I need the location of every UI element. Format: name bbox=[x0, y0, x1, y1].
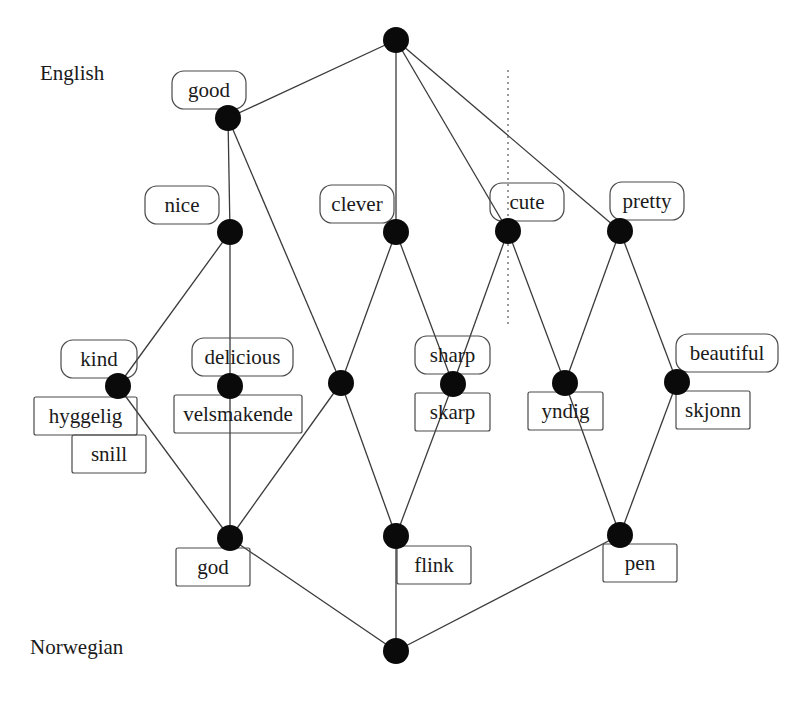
norwegian-label-text: skarp bbox=[430, 400, 476, 424]
norwegian-label-velsmakende: velsmakende bbox=[174, 395, 302, 433]
english-label-text: cute bbox=[510, 190, 545, 214]
english-label-text: pretty bbox=[623, 189, 672, 213]
norwegian-label-snill: snill bbox=[72, 435, 146, 473]
english-label-text: sharp bbox=[430, 343, 476, 367]
edge-top-good bbox=[228, 40, 396, 118]
norwegian-label-text: velsmakende bbox=[183, 402, 293, 426]
english-label-text: beautiful bbox=[690, 341, 765, 365]
english-label-nice: nice bbox=[145, 186, 219, 224]
norwegian-label-text: god bbox=[197, 555, 229, 579]
edge-cute-yndig bbox=[508, 231, 565, 383]
english-label-text: good bbox=[188, 78, 231, 102]
node-yndig bbox=[552, 370, 578, 396]
english-label-good: good bbox=[172, 71, 246, 109]
node-mid bbox=[328, 370, 354, 396]
edge-god-bottom bbox=[230, 538, 396, 651]
lattice-diagram: goodniceclevercuteprettykinddelicioussha… bbox=[0, 0, 810, 702]
language-label-norwegian: Norwegian bbox=[30, 635, 124, 659]
norwegian-label-pen: pen bbox=[603, 544, 677, 582]
node-god bbox=[217, 525, 243, 551]
edge-beautiful-pen bbox=[620, 382, 677, 535]
node-beautiful bbox=[664, 369, 690, 395]
norwegian-label-text: yndig bbox=[542, 399, 590, 423]
node-good bbox=[215, 105, 241, 131]
edge-clever-mid bbox=[341, 232, 396, 383]
norwegian-label-text: skjonn bbox=[685, 398, 742, 422]
language-label-english: English bbox=[40, 61, 105, 85]
norwegian-label-hyggelig: hyggelig bbox=[34, 397, 137, 435]
english-label-sharp: sharp bbox=[415, 336, 490, 374]
english-label-cute: cute bbox=[490, 183, 564, 221]
norwegian-label-yndig: yndig bbox=[528, 392, 603, 430]
norwegian-label-skarp: skarp bbox=[415, 393, 490, 431]
node-pen bbox=[607, 522, 633, 548]
english-label-clever: clever bbox=[320, 185, 394, 223]
english-label-kind: kind bbox=[61, 340, 137, 378]
english-label-text: kind bbox=[80, 347, 118, 371]
node-top bbox=[383, 27, 409, 53]
norwegian-label-skjonn: skjonn bbox=[676, 391, 750, 429]
node-kind bbox=[105, 373, 131, 399]
english-label-pretty: pretty bbox=[610, 182, 684, 220]
node-nice bbox=[217, 219, 243, 245]
norwegian-label-text: flink bbox=[414, 553, 454, 577]
english-labels-layer: goodniceclevercuteprettykinddelicioussha… bbox=[61, 71, 778, 378]
edge-pretty-beautiful bbox=[620, 231, 677, 382]
node-bottom bbox=[383, 638, 409, 664]
node-pretty bbox=[607, 218, 633, 244]
edge-mid-flink bbox=[341, 383, 396, 536]
english-label-text: nice bbox=[165, 193, 200, 217]
edge-pretty-yndig bbox=[565, 231, 620, 383]
norwegian-label-text: hyggelig bbox=[49, 404, 123, 428]
node-clever bbox=[383, 219, 409, 245]
norwegian-label-text: pen bbox=[625, 551, 656, 575]
norwegian-label-text: snill bbox=[91, 442, 127, 466]
edge-good-nice bbox=[228, 118, 230, 232]
english-label-delicious: delicious bbox=[192, 338, 293, 376]
node-cute bbox=[495, 218, 521, 244]
node-sharp bbox=[440, 371, 466, 397]
norwegian-label-flink: flink bbox=[397, 546, 471, 584]
node-flink bbox=[383, 523, 409, 549]
english-label-beautiful: beautiful bbox=[676, 334, 778, 372]
norwegian-labels-layer: hyggeligsnillvelsmakendeskarpyndigskjonn… bbox=[34, 391, 750, 586]
node-delicious bbox=[217, 373, 243, 399]
norwegian-label-god: god bbox=[176, 548, 250, 586]
english-label-text: delicious bbox=[205, 345, 281, 369]
english-label-text: clever bbox=[331, 192, 382, 216]
